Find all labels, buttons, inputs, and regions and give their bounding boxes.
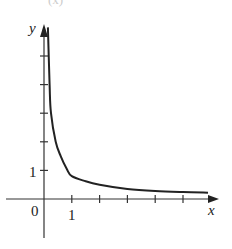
y-tick-label-1: 1 (29, 164, 37, 180)
origin-label: 0 (31, 203, 39, 219)
y-axis-label: y (27, 20, 36, 36)
function-plot: y x 0 1 1 (0, 0, 232, 249)
x-axis-label: x (207, 202, 215, 218)
x-tick-label-1: 1 (68, 207, 76, 223)
function-curve (48, 27, 208, 192)
y-axis-arrow-icon (40, 24, 48, 37)
